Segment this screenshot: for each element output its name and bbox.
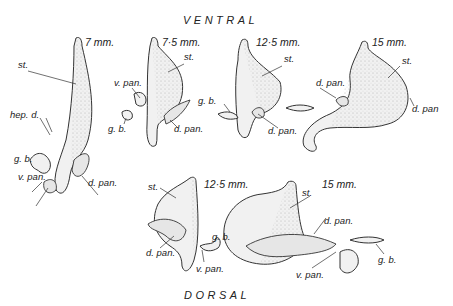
label-gall-bladder: g. b. [378,255,397,265]
label-ventral-pancreas: v. pan. [114,78,142,88]
diagram-canvas: VENTRAL DORSAL 7 mm. st. hep. d. g. b. v… [0,0,453,306]
label-ventral-pancreas: v. pan. [296,270,324,280]
label-dorsal-pancreas: d. pan. [324,216,353,226]
label-gall-bladder: g. b. [108,124,127,134]
figure-ventral-12-5mm [218,39,282,137]
label-dorsal-pancreas: d. pan. [88,178,117,188]
label-ventral-pancreas: v. pan. [18,172,46,182]
label-stomach: st. [18,60,28,70]
stage-label: 15 mm. [322,178,357,190]
label-gall-bladder: g. b. [212,232,231,242]
label-dorsal-pancreas: d. pan. [146,248,175,258]
stage-label: 7 mm. [85,36,114,48]
heading-dorsal: DORSAL [184,289,250,301]
figure-ventral-15mm [286,41,414,151]
label-stomach: st. [148,182,158,192]
label-dorsal-pancreas: d. pan. [316,78,345,88]
label-gall-bladder: g. b. [14,154,33,164]
stage-label: 15 mm. [372,36,407,48]
label-ventral-pancreas: v. pan. [196,264,224,274]
label-stomach: st. [402,56,412,66]
label-dorsal-pancreas: d. pan. [268,126,297,136]
label-stomach: st. [284,54,294,64]
stage-label: 12·5 mm. [256,36,300,48]
heading-ventral: VENTRAL [183,14,258,26]
label-gall-bladder: g. b. [198,96,217,106]
stage-label: 12·5 mm. [204,178,248,190]
label-stomach: st. [302,188,312,198]
stage-label: 7·5 mm. [162,36,201,48]
label-dorsal-pancreas: d. pan [412,104,438,114]
label-stomach: st. [184,52,194,62]
label-hepatic-duct: hep. d. [10,110,39,120]
label-dorsal-pancreas: d. pan. [174,124,203,134]
